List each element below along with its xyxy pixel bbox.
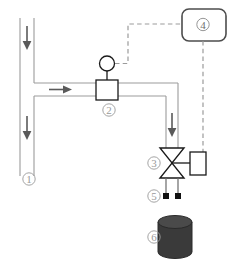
collection-tank-body xyxy=(158,216,192,259)
flow-meter-gauge-icon xyxy=(100,56,115,71)
flow-meter-body[interactable] xyxy=(96,70,118,100)
label-6-text: 6 xyxy=(151,231,157,243)
label-4-text: 4 xyxy=(200,19,206,31)
flow-arrow-upper-main xyxy=(23,26,32,50)
label-1-text: 1 xyxy=(26,173,32,185)
control-valve-body[interactable] xyxy=(160,148,190,178)
nozzle-pair xyxy=(163,178,181,199)
flow-arrow-downcomer xyxy=(168,113,177,137)
valve-actuator[interactable] xyxy=(190,152,206,175)
flow-arrow-lower-main xyxy=(23,116,32,140)
label-3-text: 3 xyxy=(151,157,157,169)
signal-meter-to-controller xyxy=(115,24,182,64)
flow-arrow-branch xyxy=(49,85,72,93)
process-flow-diagram: 1 2 3 4 5 6 xyxy=(0,0,235,266)
label-5-text: 5 xyxy=(151,190,157,202)
label-2-text: 2 xyxy=(106,104,112,116)
label-5: 5 xyxy=(148,190,160,202)
label-3: 3 xyxy=(148,157,160,169)
label-1: 1 xyxy=(23,173,35,185)
label-2: 2 xyxy=(103,104,115,116)
diagram-canvas: 1 2 3 4 5 6 xyxy=(0,0,235,266)
